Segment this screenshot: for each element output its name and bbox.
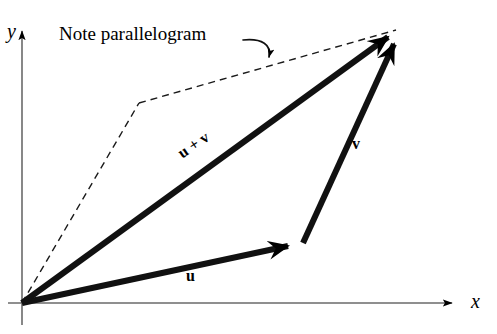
vector-u-label: u — [186, 268, 195, 284]
x-axis-label: x — [471, 291, 480, 311]
y-axis-label: y — [7, 21, 16, 41]
note-parallelogram-label: Note parallelogram — [59, 24, 206, 43]
dashed-v-from-origin — [22, 103, 139, 303]
vector-group — [22, 37, 394, 303]
vector-addition-figure: y x Note parallelogram u v u + v — [0, 0, 497, 334]
note-leader-group — [243, 40, 270, 57]
axis-group — [8, 31, 452, 325]
figure-canvas — [0, 0, 497, 334]
vector-v-arrow — [303, 44, 394, 243]
vector-v-label: v — [352, 136, 360, 152]
note-leader-curve — [243, 40, 270, 57]
